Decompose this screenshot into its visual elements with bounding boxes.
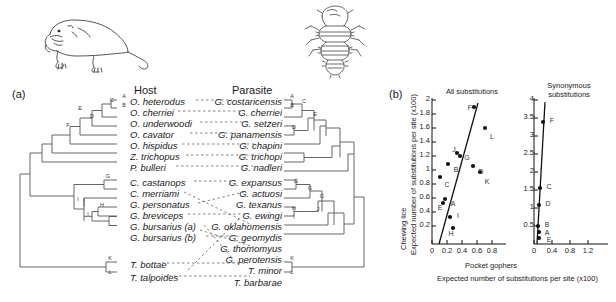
chart-1-ytick: 1.2 xyxy=(412,150,430,159)
chart-1-point-label-H: H xyxy=(447,230,455,237)
parasite-node-G2: G xyxy=(306,186,314,192)
host-node-C: C xyxy=(108,98,116,104)
chart-2-point-label-B: B xyxy=(543,221,551,228)
host-node-D: D xyxy=(88,114,96,120)
chart-2-ytick: 3 xyxy=(512,130,534,139)
host-node-I-outer: I xyxy=(74,197,82,203)
parasite-node-K: K xyxy=(288,256,296,262)
chart-1-ytick: 0.4 xyxy=(412,206,430,215)
chart-1-point-label-K: K xyxy=(483,178,491,185)
chart-1-point-label-L: L xyxy=(488,133,496,140)
host-node-A: A xyxy=(120,94,128,100)
x-axis-units-label: Expected number of substitutions per sit… xyxy=(437,274,598,283)
host-node-K: K xyxy=(106,256,114,262)
chart-2-point-label-D: D xyxy=(544,200,552,207)
host-node-B: B xyxy=(120,103,128,109)
chart-1-ytick: 1.6 xyxy=(412,122,430,131)
parasite-node-H: H xyxy=(290,206,298,212)
chewing-louse-drawing xyxy=(300,2,370,78)
chart-1-ytick: 0.2 xyxy=(412,220,430,229)
host-node-L: L xyxy=(106,270,114,276)
pocket-gopher-drawing xyxy=(28,4,158,74)
chart-1-point-label-D: D xyxy=(477,168,485,175)
chart-2-ytick: 4 xyxy=(512,94,534,103)
chart-2-point-label-A: A xyxy=(543,229,551,236)
chart-1-point-label-A: A xyxy=(449,200,457,207)
chewing-lice-axis-text: Chewing lice xyxy=(399,207,408,250)
chart-1-ytick: 1 xyxy=(412,164,430,173)
chart-1-ytick: 2 xyxy=(412,94,430,103)
host-node-E: E xyxy=(76,106,84,112)
parasite-node-C: C xyxy=(300,99,308,105)
chart-2-ytick: 1.5 xyxy=(512,184,534,193)
parasite-node-L: L xyxy=(288,270,296,276)
chart-2-xtick: 1.2 xyxy=(582,246,594,255)
chart-2-point-label-F: F xyxy=(548,117,556,124)
panel-b-label: (b) xyxy=(389,88,402,100)
chart-1-xtick: 0.4 xyxy=(456,246,468,255)
host-node-F: F xyxy=(64,123,72,129)
chart-1-point-label-I: I xyxy=(454,212,462,219)
chart-2-ytick: 1 xyxy=(512,202,534,211)
parasite-node-A: A xyxy=(288,94,296,100)
host-node-I-inner: I xyxy=(84,212,92,218)
chart-2-xtick: 0 xyxy=(528,246,540,255)
host-node-G: G xyxy=(104,174,112,180)
host-node-H: H xyxy=(98,203,106,209)
chart-2-xtick: 0.4 xyxy=(546,246,558,255)
chart-1-ytick: 1.4 xyxy=(412,136,430,145)
chart-2-ytick: 3.5 xyxy=(512,112,534,121)
chart-2-ytick: 0.5 xyxy=(512,220,534,229)
chart-1-ytick: 0.6 xyxy=(412,192,430,201)
host-parasite-association-lines xyxy=(128,92,288,292)
parasite-node-D: D xyxy=(290,125,298,131)
parasite-node-G3: G xyxy=(318,194,326,200)
chart-1-point-label-J: J xyxy=(450,146,458,153)
chart-1-xtick: 0 xyxy=(426,246,438,255)
chart-1-ytick: 1.8 xyxy=(412,108,430,117)
parasite-node-I: I xyxy=(290,215,298,221)
chart-1-xtick: 0.8 xyxy=(486,246,498,255)
chart-1-point-label-C: C xyxy=(443,181,451,188)
chart-2-xtick: 0.8 xyxy=(564,246,576,255)
chart-1-point-label-F: F xyxy=(466,104,474,111)
parasite-node-E: E xyxy=(311,112,319,118)
chart-1-point-label-G: G xyxy=(463,154,471,161)
pocket-gophers-axis-label: Pocket gophers xyxy=(465,261,517,270)
parasite-node-B: B xyxy=(288,103,296,109)
chart-2-ytick: 2.5 xyxy=(512,148,534,157)
chart-2-point-label-E: E xyxy=(545,236,553,243)
chart-1-point-label-E: E xyxy=(436,204,444,211)
parasite-node-G1: G xyxy=(292,179,300,185)
chart-1-xtick: 0.2 xyxy=(441,246,453,255)
chart-2-ytick: 2 xyxy=(512,166,534,175)
chart-1-ytick: 0.8 xyxy=(412,178,430,187)
chart-1-point-label-B: B xyxy=(452,166,460,173)
chart-1-xtick: 0.6 xyxy=(471,246,483,255)
chart-2-point-label-C: C xyxy=(545,183,553,190)
parasite-node-J: J xyxy=(314,207,322,213)
